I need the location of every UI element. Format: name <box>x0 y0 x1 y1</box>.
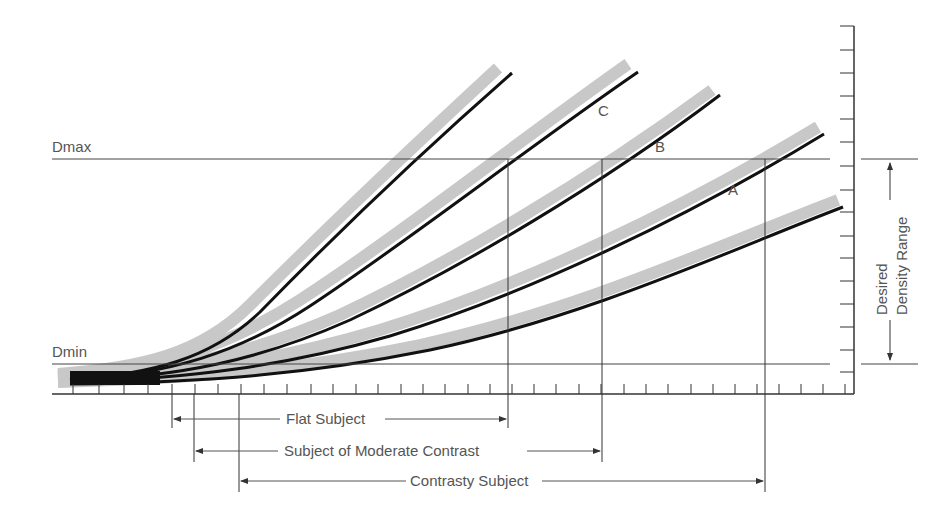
characteristic-curve-diagram: Desired Density Range Dmax Dmin C B A Fl… <box>0 0 952 522</box>
range-label-1: Desired <box>873 263 890 315</box>
y-ticks <box>840 26 854 372</box>
curve-a-label: A <box>728 181 738 198</box>
moderate-subject-label: Subject of Moderate Contrast <box>284 442 480 459</box>
contrasty-subject-label: Contrasty Subject <box>410 472 529 489</box>
toe-block <box>70 371 160 385</box>
dmin-label: Dmin <box>52 343 87 360</box>
curve-b-label: B <box>655 138 665 155</box>
flat-subject-label: Flat Subject <box>286 410 366 427</box>
range-label-2: Density Range <box>893 217 910 315</box>
curve-bands <box>58 64 838 382</box>
dmax-label: Dmax <box>52 138 92 155</box>
curve-c-label: C <box>598 102 609 119</box>
x-ticks <box>73 384 845 394</box>
